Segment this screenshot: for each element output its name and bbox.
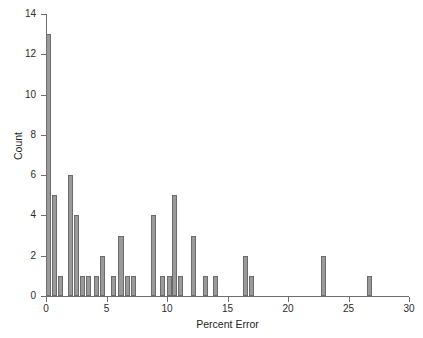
- y-tick: [41, 175, 46, 176]
- y-tick: [41, 14, 46, 15]
- histogram-bar: [131, 276, 136, 296]
- x-tick: [107, 297, 108, 302]
- histogram-bar: [80, 276, 85, 296]
- histogram-bar: [94, 276, 99, 296]
- x-tick: [409, 297, 410, 302]
- y-tick-label: 0: [8, 291, 36, 301]
- histogram-bar: [178, 276, 183, 296]
- x-tick: [167, 297, 168, 302]
- histogram-bar: [367, 276, 372, 296]
- histogram-bar: [172, 195, 177, 296]
- histogram-bar: [58, 276, 63, 296]
- y-tick: [41, 215, 46, 216]
- x-tick-label: 30: [394, 304, 423, 314]
- y-tick: [41, 54, 46, 55]
- bars-layer: [46, 14, 409, 296]
- histogram-bar: [68, 175, 73, 296]
- histogram-bar: [100, 256, 105, 296]
- y-axis-label: Count: [12, 116, 24, 176]
- histogram-bar: [213, 276, 218, 296]
- x-tick: [349, 297, 350, 302]
- y-tick: [41, 95, 46, 96]
- histogram-figure: 02468101214 051015202530 Percent Error C…: [0, 0, 423, 338]
- x-tick-label: 25: [334, 304, 364, 314]
- histogram-bar: [125, 276, 130, 296]
- histogram-bar: [86, 276, 91, 296]
- x-tick: [46, 297, 47, 302]
- histogram-bar: [111, 276, 116, 296]
- x-tick-label: 0: [31, 304, 61, 314]
- histogram-bar: [203, 276, 208, 296]
- x-tick: [228, 297, 229, 302]
- x-tick-label: 5: [92, 304, 122, 314]
- histogram-bar: [321, 256, 326, 296]
- y-axis-line: [46, 14, 47, 296]
- x-tick: [288, 297, 289, 302]
- histogram-bar: [249, 276, 254, 296]
- y-tick: [41, 256, 46, 257]
- x-axis-label: Percent Error: [46, 318, 409, 330]
- histogram-bar: [243, 256, 248, 296]
- y-tick-label: 14: [8, 9, 36, 19]
- histogram-bar: [74, 215, 79, 296]
- y-tick-label: 4: [8, 210, 36, 220]
- x-tick-label: 15: [213, 304, 243, 314]
- histogram-bar: [191, 236, 196, 296]
- y-tick-label: 10: [8, 90, 36, 100]
- histogram-bar: [151, 215, 156, 296]
- plot-area: [46, 14, 409, 296]
- histogram-bar: [160, 276, 165, 296]
- y-tick-label: 12: [8, 49, 36, 59]
- y-tick: [41, 135, 46, 136]
- x-tick-label: 20: [273, 304, 303, 314]
- x-tick-label: 10: [152, 304, 182, 314]
- histogram-bar: [52, 195, 57, 296]
- histogram-bar: [118, 236, 123, 296]
- y-tick-label: 2: [8, 251, 36, 261]
